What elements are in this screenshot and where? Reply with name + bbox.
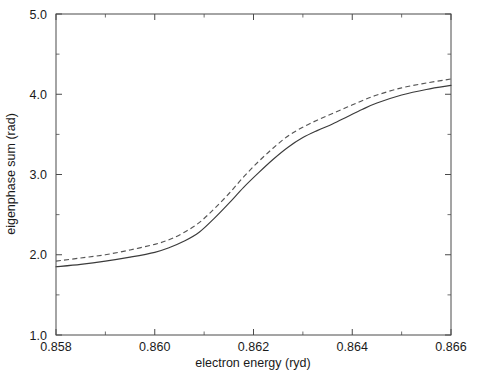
y-tick-label: 5.0 — [30, 8, 47, 22]
y-tick-label: 4.0 — [30, 88, 47, 102]
x-tick-label: 0.864 — [337, 340, 368, 354]
x-tick-label: 0.866 — [435, 340, 466, 354]
y-tick-label: 1.0 — [30, 329, 47, 343]
eigenphase-sum-chart: 0.8580.8600.8620.8640.866 1.02.03.04.05.… — [0, 0, 481, 382]
y-axis-title: eigenphase sum (rad) — [4, 113, 18, 235]
x-tick-label: 0.862 — [238, 340, 269, 354]
y-tick-label: 3.0 — [30, 168, 47, 182]
x-tick-label: 0.860 — [139, 340, 170, 354]
y-tick-label: 2.0 — [30, 248, 47, 262]
x-axis-title: electron energy (ryd) — [195, 356, 310, 370]
